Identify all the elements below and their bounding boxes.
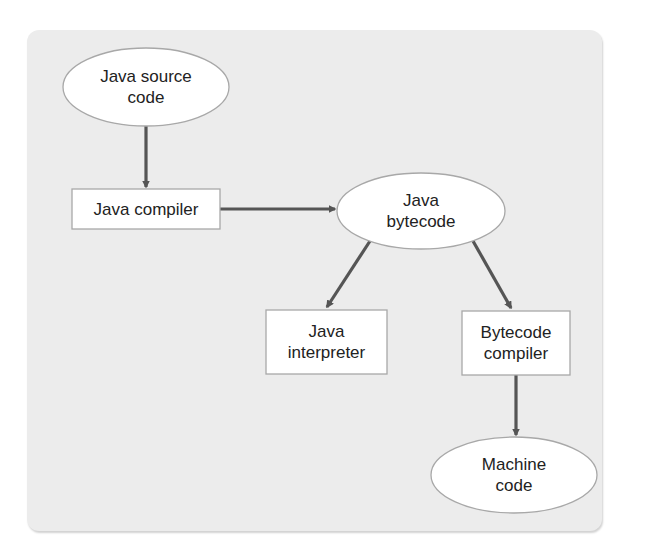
node-java-source-code-label: Java source code (63, 48, 229, 126)
node-java-compiler-label: Java compiler (72, 189, 220, 229)
node-machine-code-label: Machine code (431, 437, 597, 513)
edge-bytecode-to-bytecode-compiler (473, 241, 511, 308)
node-java-interpreter-label: Java interpreter (266, 310, 387, 374)
node-bytecode-compiler-label: Bytecode compiler (462, 311, 570, 375)
node-java-bytecode-label: Java bytecode (337, 173, 505, 249)
edge-bytecode-to-interpreter (327, 241, 370, 307)
